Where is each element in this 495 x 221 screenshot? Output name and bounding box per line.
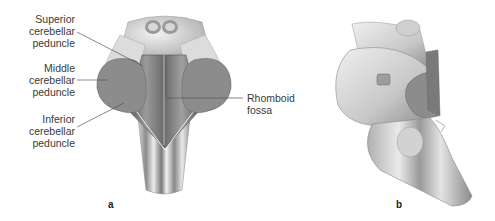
leader-inferior: [77, 103, 124, 127]
label-line: Rhomboid: [247, 92, 295, 104]
panel-b-brainstem-lateral: [336, 20, 472, 206]
label-middle-cerebellar-peduncle: Middle cerebellar peduncle: [28, 62, 75, 98]
label-rhomboid-fossa: Rhomboid fossa: [247, 92, 295, 116]
label-line: peduncle: [28, 86, 75, 98]
label-line: peduncle: [28, 137, 75, 149]
label-line: peduncle: [28, 37, 75, 49]
panel-letter-a: a: [108, 199, 114, 210]
label-inferior-cerebellar-peduncle: Inferior cerebellar peduncle: [28, 113, 75, 149]
panel-a-brainstem-dorsal: [97, 16, 231, 194]
label-line: Superior: [28, 13, 75, 25]
label-superior-cerebellar-peduncle: Superior cerebellar peduncle: [28, 13, 75, 49]
label-line: Inferior: [28, 113, 75, 125]
label-line: cerebellar: [28, 125, 75, 137]
label-line: Middle: [28, 62, 75, 74]
label-line: fossa: [247, 104, 295, 116]
panel-letter-b: b: [396, 199, 402, 210]
label-line: cerebellar: [28, 74, 75, 86]
label-line: cerebellar: [28, 25, 75, 37]
